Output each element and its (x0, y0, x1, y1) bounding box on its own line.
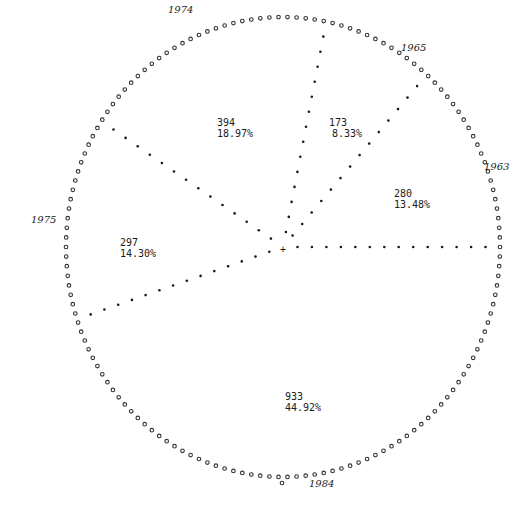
bottom-marker (280, 481, 284, 485)
year-label-1963: 1963 (484, 161, 509, 172)
slice-label-394: 394 18.97% (217, 117, 253, 139)
svg-text:280: 280 (394, 188, 412, 199)
year-label-1965: 1965 (401, 42, 426, 53)
slice-label-173: 173 8.33% (329, 117, 362, 139)
year-label-1975: 1975 (31, 214, 56, 225)
center-mark: + (280, 244, 286, 255)
pie-chart: + 394 18.97% 173 8.33% 280 13.48% 297 14… (0, 0, 532, 506)
svg-text:8.33%: 8.33% (332, 128, 362, 139)
svg-text:14.30%: 14.30% (120, 248, 156, 259)
slice-label-280: 280 13.48% (394, 188, 430, 210)
svg-text:13.48%: 13.48% (394, 199, 430, 210)
slice-label-933: 933 44.92% (285, 391, 321, 413)
year-label-1984: 1984 (309, 478, 334, 489)
year-label-1974: 1974 (168, 4, 193, 15)
svg-text:933: 933 (285, 391, 303, 402)
svg-text:44.92%: 44.92% (285, 402, 321, 413)
svg-text:173: 173 (329, 117, 347, 128)
svg-text:18.97%: 18.97% (217, 128, 253, 139)
svg-text:297: 297 (120, 237, 138, 248)
slice-label-297: 297 14.30% (120, 237, 156, 259)
svg-text:394: 394 (217, 117, 235, 128)
